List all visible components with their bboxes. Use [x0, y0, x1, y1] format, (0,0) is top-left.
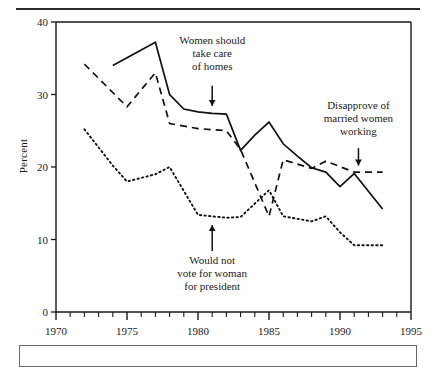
x-tick-label: 1970	[45, 325, 68, 337]
y-tick-label: 40	[37, 16, 49, 28]
ann-disapprove-label: Disapprove ofmarried womenworking	[324, 99, 394, 137]
ann-vote-arrow-head	[209, 225, 216, 231]
y-tick-label: 10	[37, 234, 49, 246]
annotations-group: Women shouldtake careof homesDisapprove …	[177, 34, 393, 292]
ann-homes-label: Women shouldtake careof homes	[179, 34, 246, 72]
series-group	[84, 42, 382, 245]
ann-vote-label: Would notvote for womanfor president	[177, 254, 247, 292]
x-tick-label: 1980	[187, 325, 210, 337]
series-line-3	[84, 129, 382, 245]
x-tick-label: 1985	[258, 325, 281, 337]
y-tick-label: 20	[37, 161, 49, 173]
series-line-2	[84, 64, 382, 216]
note-box	[19, 345, 417, 367]
ann-homes-arrow-head	[209, 100, 216, 106]
ann-disapprove-arrow-head	[355, 160, 362, 166]
x-tick-label: 1995	[400, 325, 423, 337]
x-tick-label: 1975	[116, 325, 139, 337]
y-tick-label: 0	[43, 306, 49, 318]
x-tick-label: 1990	[329, 325, 352, 337]
y-tick-label: 30	[37, 89, 49, 101]
